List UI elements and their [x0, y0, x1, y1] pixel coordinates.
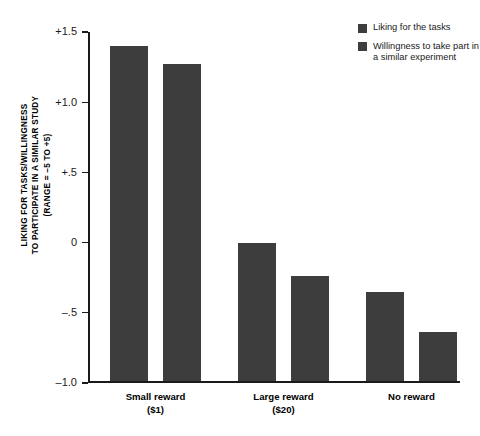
category-label-sub: ($20): [253, 403, 313, 416]
y-axis-title-line-3: (RANGE = –5 TO +5): [42, 133, 54, 216]
category-label-main: Large reward: [253, 391, 313, 402]
bar: [163, 64, 201, 381]
y-axis-title-line-1: LIKING FOR TASKS/WILLINGNESS: [19, 104, 31, 247]
bar: [419, 332, 457, 381]
y-axis-tick-label: –1.0: [56, 376, 77, 388]
y-axis-tick: –.5: [82, 312, 88, 313]
y-axis-tick-label: 0: [71, 236, 77, 248]
legend-swatch-icon: [358, 24, 367, 33]
legend-item-label: Liking for the tasks: [373, 22, 451, 34]
y-axis-tick-label: –.5: [62, 306, 77, 318]
bar-chart: LIKING FOR TASKS/WILLINGNESS TO PARTICIP…: [0, 0, 480, 436]
legend: Liking for the tasks Willingness to take…: [358, 22, 480, 71]
y-axis-tick-label: +.5: [61, 166, 77, 178]
plot-area: +1.5+1.0+.50–.5–1.0: [88, 32, 460, 383]
bar: [238, 243, 276, 382]
x-axis-category-label: No reward: [388, 390, 435, 403]
bar: [366, 292, 404, 382]
legend-swatch-icon: [358, 42, 367, 51]
legend-item: Liking for the tasks: [358, 22, 480, 34]
x-axis-category-label: Small reward($1): [126, 390, 186, 416]
category-label-main: Small reward: [126, 391, 186, 402]
x-axis-baseline: [88, 381, 460, 383]
y-axis-tick: –1.0: [82, 382, 88, 383]
y-axis-title-line-2: TO PARTICIPATE IN A SIMILAR STUDY: [30, 96, 42, 255]
y-axis-tick: +1.5: [82, 31, 88, 32]
y-axis-tick-label: +1.0: [55, 96, 77, 108]
y-axis-tick-label: +1.5: [55, 25, 77, 37]
category-label-sub: ($1): [126, 403, 186, 416]
category-label-main: No reward: [388, 391, 435, 402]
legend-item-label: Willingness to take part in a similar ex…: [373, 41, 480, 64]
legend-item: Willingness to take part in a similar ex…: [358, 41, 480, 64]
y-axis-line: [88, 32, 90, 383]
x-axis-category-label: Large reward($20): [253, 390, 313, 416]
bar: [110, 46, 148, 381]
y-axis-title: LIKING FOR TASKS/WILLINGNESS TO PARTICIP…: [13, 55, 59, 295]
bar: [291, 276, 329, 381]
y-axis-tick: 0: [82, 242, 88, 243]
y-axis-tick: +.5: [82, 172, 88, 173]
y-axis-tick: +1.0: [82, 102, 88, 103]
